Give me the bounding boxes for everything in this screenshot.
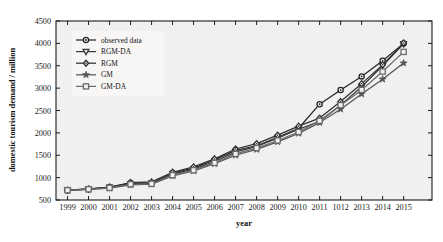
data-point	[233, 151, 238, 156]
legend-item-gm-da[interactable]: GM-DA	[76, 82, 127, 91]
data-point	[149, 181, 154, 186]
data-point	[65, 188, 70, 193]
x-tick-label: 1999	[59, 203, 75, 212]
y-tick-label: 3000	[35, 84, 51, 93]
data-point	[359, 74, 364, 79]
x-tick-label: 2009	[269, 203, 285, 212]
x-tick-label: 2000	[80, 203, 96, 212]
data-point	[296, 129, 301, 134]
x-tick-label: 2005	[185, 203, 201, 212]
data-point	[170, 173, 175, 178]
data-point	[191, 168, 196, 173]
data-point	[86, 187, 91, 192]
y-axis-title: domestic tourism demand / million	[8, 48, 17, 173]
x-tick-label: 2013	[353, 203, 369, 212]
legend-label: GM-DA	[101, 82, 127, 91]
y-tick-label: 2000	[35, 129, 51, 138]
legend-label: RGM	[101, 59, 118, 68]
legend-label: GM	[101, 70, 113, 79]
data-point	[317, 102, 322, 107]
x-tick-label: 2014	[374, 203, 390, 212]
y-tick-label: 2500	[35, 107, 51, 116]
x-tick-label: 2015	[395, 203, 411, 212]
legend-label: RGM-DA	[101, 47, 132, 56]
data-point	[317, 118, 322, 123]
y-tick-label: 1500	[35, 151, 51, 160]
data-point	[380, 69, 385, 74]
x-tick-label: 2001	[101, 203, 117, 212]
x-tick-label: 2003	[143, 203, 159, 212]
legend-label: observed data	[101, 36, 143, 45]
y-tick-label: 4000	[35, 39, 51, 48]
legend-marker	[83, 37, 88, 42]
data-point	[128, 182, 133, 187]
x-tick-label: 2007	[227, 203, 243, 212]
legend-box: observed dataRGM-DARGMGMGM-DA	[72, 31, 164, 96]
x-tick-label: 2011	[312, 203, 328, 212]
y-tick-label: 1000	[35, 174, 51, 183]
data-point	[212, 160, 217, 165]
data-point	[254, 145, 259, 150]
x-tick-label: 2004	[164, 203, 180, 212]
data-point	[338, 103, 343, 108]
x-tick-label: 2008	[248, 203, 264, 212]
data-point	[275, 138, 280, 143]
data-point	[338, 87, 343, 92]
x-axis-title: year	[236, 219, 252, 228]
data-point	[401, 49, 406, 54]
y-tick-label: 3500	[35, 62, 51, 71]
x-tick-label: 2002	[122, 203, 138, 212]
data-point	[107, 185, 112, 190]
y-tick-label: 4500	[35, 17, 51, 26]
x-tick-label: 2006	[206, 203, 222, 212]
domestic-tourism-demand-line-chart: 5001000150020002500300035004000450019992…	[0, 0, 443, 242]
legend-marker	[83, 84, 88, 89]
x-tick-label: 1012	[332, 203, 348, 212]
data-point	[359, 87, 364, 92]
y-tick-label: 500	[39, 196, 51, 205]
chart-container: 5001000150020002500300035004000450019992…	[0, 0, 443, 242]
x-tick-label: 2010	[290, 203, 306, 212]
